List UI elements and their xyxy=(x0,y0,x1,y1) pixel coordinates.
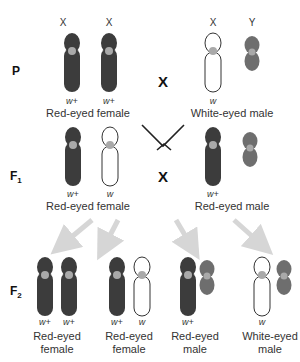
x-chromosome-white xyxy=(134,257,150,316)
cross-lines xyxy=(142,125,184,150)
x-chromosome-white xyxy=(205,33,221,92)
row-label-f2: F2 xyxy=(10,284,22,300)
allele-label: w xyxy=(259,317,266,327)
phenotype-label: Red-eyed female xyxy=(46,107,130,119)
cross-symbol: X xyxy=(158,168,168,185)
phenotype-label: male xyxy=(183,343,207,355)
y-chromosome xyxy=(245,36,260,71)
chromosome-label-x: X xyxy=(106,17,113,28)
chromosome-label-y: Y xyxy=(249,17,256,28)
allele-label: w xyxy=(139,317,146,327)
x-chromosome-red xyxy=(65,127,81,186)
chromosome-label-x: X xyxy=(210,17,217,28)
arrows xyxy=(62,220,262,247)
y-chromosome xyxy=(243,132,258,167)
allele-label: w+ xyxy=(66,96,78,106)
chromosome-label-x: X xyxy=(60,17,67,28)
x-chromosome-red xyxy=(64,33,80,92)
allele-label: w+ xyxy=(182,317,194,327)
phenotype-label: White-eyed male xyxy=(191,107,274,119)
phenotype-label: Red-eyed female xyxy=(46,200,130,212)
allele-label: w+ xyxy=(67,189,79,199)
phenotype-label: Red-eyed xyxy=(171,330,219,342)
arrow-icon xyxy=(62,220,92,245)
row-label-f1: F1 xyxy=(10,169,22,185)
phenotype-label: female xyxy=(40,343,73,355)
y-chromosome xyxy=(200,260,215,295)
x-chromosome-red xyxy=(205,127,221,186)
allele-label: w+ xyxy=(207,189,219,199)
phenotype-label: Red-eyed xyxy=(33,330,81,342)
x-chromosome-white xyxy=(254,257,270,316)
y-chromosome xyxy=(277,260,292,295)
x-chromosome-red xyxy=(37,257,53,316)
allele-label: w xyxy=(210,96,217,106)
allele-label: w+ xyxy=(111,317,123,327)
x-chromosome-white xyxy=(102,127,118,186)
inheritance-diagram: P F1 F2 X X w+ w+ Red-eyed female X X Y … xyxy=(0,0,300,362)
allele-label: w+ xyxy=(39,317,51,327)
allele-label: w+ xyxy=(63,317,75,327)
arrow-icon xyxy=(234,220,262,245)
x-chromosome-red xyxy=(180,257,196,316)
arrow-icon xyxy=(176,220,192,247)
phenotype-label: White-eyed xyxy=(242,330,298,342)
phenotype-label: female xyxy=(112,343,145,355)
phenotype-label: male xyxy=(258,343,282,355)
x-chromosome-red xyxy=(61,257,77,316)
x-chromosome-red xyxy=(101,33,117,92)
x-chromosome-red xyxy=(109,257,125,316)
phenotype-label: Red-eyed xyxy=(105,330,153,342)
allele-label: w xyxy=(107,189,114,199)
phenotype-label: Red-eyed male xyxy=(195,200,270,212)
cross-symbol: X xyxy=(158,73,168,90)
arrow-icon xyxy=(104,220,118,247)
row-label-p: P xyxy=(12,64,20,78)
allele-label: w+ xyxy=(103,96,115,106)
